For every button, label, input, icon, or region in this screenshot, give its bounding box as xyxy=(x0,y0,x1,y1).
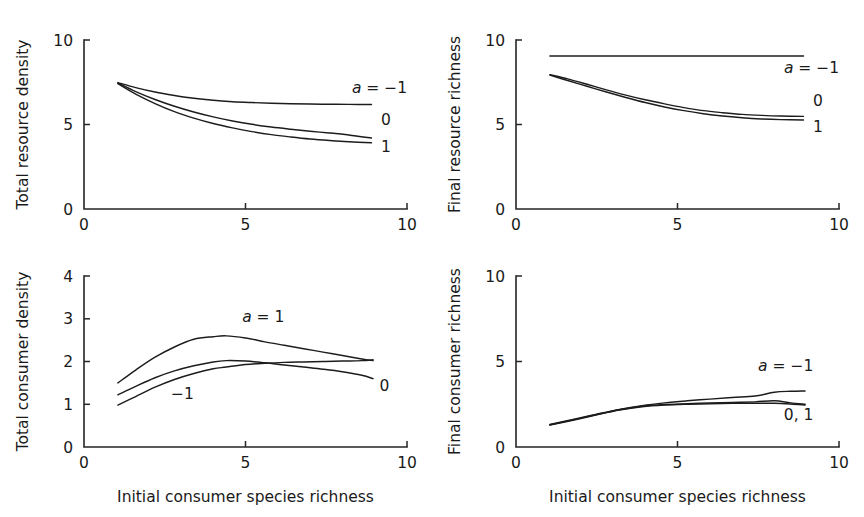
axis-spines xyxy=(84,40,407,209)
x-tick-label: 10 xyxy=(397,454,417,472)
panel-total-consumer-density: 051001234Total consumer densityInitial c… xyxy=(0,258,432,516)
figure-container: 05100510Total resource densitya = −101 0… xyxy=(0,0,864,517)
series-line-2 xyxy=(550,403,805,425)
series-label-0: a = −1 xyxy=(758,357,813,375)
x-tick-label: 5 xyxy=(241,216,251,234)
series-label-1: 0 xyxy=(813,92,823,110)
panel-final-resource-richness: 05100510Final resource richnessa = −101 xyxy=(432,0,864,258)
panel-total-resource-density: 05100510Total resource densitya = −101 xyxy=(0,0,432,258)
x-tick-label: 5 xyxy=(673,216,683,234)
y-axis-title: Total resource density xyxy=(14,40,32,211)
series-line-0 xyxy=(550,391,805,425)
series-line-2 xyxy=(550,75,804,120)
series-line-0 xyxy=(118,336,373,383)
series-label-rest: = −1 xyxy=(768,357,814,375)
series-line-2 xyxy=(118,360,373,405)
series-line-0 xyxy=(118,83,372,105)
chart-final-resource-richness: 05100510Final resource richnessa = −101 xyxy=(432,0,864,258)
y-tick-label: 10 xyxy=(53,32,73,50)
series-label-rest: = −1 xyxy=(361,79,407,97)
x-tick-label: 10 xyxy=(829,454,849,472)
x-tick-label: 10 xyxy=(829,216,849,234)
y-tick-label: 5 xyxy=(495,116,505,134)
y-tick-label: 5 xyxy=(63,116,73,134)
y-tick-label: 4 xyxy=(63,268,73,286)
chart-total-resource-density: 05100510Total resource densitya = −101 xyxy=(0,0,432,258)
y-axis-title: Final resource richness xyxy=(446,36,464,213)
x-tick-label: 0 xyxy=(511,454,521,472)
series-label-1: 0 xyxy=(381,111,391,129)
x-axis-title: Initial consumer species richness xyxy=(549,488,806,506)
chart-final-consumer-richness: 05100510Final consumer richnessInitial c… xyxy=(432,258,864,516)
series-label-0: a = 1 xyxy=(242,308,284,326)
y-tick-label: 5 xyxy=(495,353,505,371)
y-tick-label: 3 xyxy=(63,310,73,328)
series-label-2: 1 xyxy=(813,118,823,136)
y-tick-label: 2 xyxy=(63,353,73,371)
series-label-italic: a xyxy=(758,357,768,375)
x-tick-label: 5 xyxy=(673,454,683,472)
series-label-rest: = 1 xyxy=(252,308,285,326)
x-tick-label: 10 xyxy=(397,216,417,234)
series-label-1: 0 xyxy=(379,377,389,395)
x-tick-label: 0 xyxy=(511,216,521,234)
x-axis-title: Initial consumer species richness xyxy=(117,488,374,506)
series-line-1 xyxy=(550,75,804,117)
y-tick-label: 1 xyxy=(63,396,73,414)
series-label-0: a = −1 xyxy=(352,79,407,97)
y-tick-label: 0 xyxy=(495,439,505,457)
series-label-1: 0, 1 xyxy=(784,406,814,424)
series-label-italic: a xyxy=(242,308,252,326)
y-tick-label: 0 xyxy=(63,201,73,219)
series-label-rest: = −1 xyxy=(793,59,839,77)
y-tick-label: 0 xyxy=(63,439,73,457)
series-label-2: 1 xyxy=(381,138,391,156)
y-axis-title: Final consumer richness xyxy=(446,268,464,455)
x-tick-label: 5 xyxy=(241,454,251,472)
series-line-1 xyxy=(118,361,373,395)
y-tick-label: 10 xyxy=(485,268,505,286)
y-tick-label: 10 xyxy=(485,32,505,50)
series-label-italic: a xyxy=(784,59,794,77)
chart-total-consumer-density: 051001234Total consumer densityInitial c… xyxy=(0,258,432,516)
panel-final-consumer-richness: 05100510Final consumer richnessInitial c… xyxy=(432,258,864,516)
y-tick-label: 0 xyxy=(495,201,505,219)
series-label-italic: a xyxy=(352,79,362,97)
x-tick-label: 0 xyxy=(79,216,89,234)
series-label-0: a = −1 xyxy=(784,59,839,77)
y-axis-title: Total consumer density xyxy=(14,272,32,453)
series-label-2: −1 xyxy=(171,385,194,403)
x-tick-label: 0 xyxy=(79,454,89,472)
